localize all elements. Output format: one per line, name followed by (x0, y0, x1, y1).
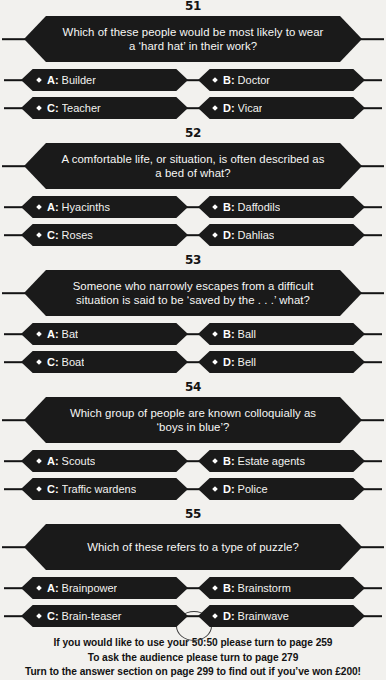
answer-option-b[interactable]: B: Doctor (198, 69, 365, 91)
answer-text: Brainwave (238, 610, 289, 622)
question-banner-shape: Which of these refers to a type of puzzl… (24, 524, 362, 570)
answer-row-ab: A: Hyacinths B: Daffodils (0, 196, 386, 218)
answer-letter: B: (223, 201, 235, 213)
diamond-bullet-icon (212, 585, 218, 591)
diamond-bullet-icon (36, 458, 42, 464)
answer-text: Dahlias (238, 229, 275, 241)
answer-option-b[interactable]: B: Daffodils (198, 196, 365, 218)
question-banner: Which of these refers to a type of puzzl… (0, 524, 386, 570)
question-banner: Which group of people are known colloqui… (0, 397, 386, 443)
question-banner-shape: Someone who narrowly escapes from a diff… (24, 270, 362, 316)
answer-option-b[interactable]: B: Ball (198, 323, 365, 345)
answer-text: Doctor (238, 74, 270, 86)
diamond-bullet-icon (36, 359, 42, 365)
answer-letter: C: (47, 102, 59, 114)
answer-letter: B: (223, 328, 235, 340)
question-text: Which group of people are known colloqui… (24, 406, 362, 435)
answer-letter: D: (223, 102, 235, 114)
footer-line-ask-audience: To ask the audience please turn to page … (0, 651, 386, 666)
answer-row-cd: C: Teacher D: Vicar (0, 97, 386, 119)
question-banner: Someone who narrowly escapes from a diff… (0, 270, 386, 316)
answer-letter: A: (47, 328, 59, 340)
question-block: 54 Which group of people are known collo… (0, 381, 386, 500)
question-text: Someone who narrowly escapes from a diff… (24, 279, 362, 308)
answer-option-d[interactable]: D: Bell (198, 351, 365, 373)
answer-option-a[interactable]: A: Bat (21, 323, 188, 345)
answer-option-a[interactable]: A: Hyacinths (21, 196, 188, 218)
question-number: 54 (0, 381, 386, 395)
answer-text: Bell (238, 356, 256, 368)
diamond-bullet-icon (36, 585, 42, 591)
answer-row-ab: A: Brainpower B: Brainstorm (0, 577, 386, 599)
answer-text: Estate agents (238, 455, 305, 467)
answer-letter: C: (47, 356, 59, 368)
diamond-bullet-icon (212, 232, 218, 238)
question-number: 52 (0, 127, 386, 141)
answer-text: Vicar (238, 102, 263, 114)
answer-option-c[interactable]: C: Boat (21, 351, 188, 373)
answer-text: Police (238, 483, 268, 495)
answer-option-a[interactable]: A: Brainpower (21, 577, 188, 599)
question-text: A comfortable life, or situation, is oft… (24, 152, 362, 181)
answer-option-c[interactable]: C: Roses (21, 224, 188, 246)
question-text: Which of these refers to a type of puzzl… (53, 540, 333, 555)
answer-option-c[interactable]: C: Teacher (21, 97, 188, 119)
answer-text: Scouts (62, 455, 96, 467)
question-banner-shape: Which of these people would be most like… (24, 16, 362, 62)
answer-option-a[interactable]: A: Scouts (21, 450, 188, 472)
diamond-bullet-icon (36, 613, 42, 619)
answer-text: Hyacinths (62, 201, 110, 213)
question-block: 51 Which of these people would be most l… (0, 0, 386, 119)
answer-text: Boat (62, 356, 85, 368)
answer-option-c[interactable]: C: Traffic wardens (21, 478, 188, 500)
footer-line-answer-section: Turn to the answer section on page 299 t… (0, 665, 386, 680)
answer-letter: D: (223, 356, 235, 368)
answer-text: Builder (62, 74, 96, 86)
answer-letter: C: (47, 610, 59, 622)
question-banner-shape: A comfortable life, or situation, is oft… (24, 143, 362, 189)
answer-letter: C: (47, 483, 59, 495)
answer-option-a[interactable]: A: Builder (21, 69, 188, 91)
answer-text: Daffodils (238, 201, 281, 213)
answer-option-d[interactable]: D: Brainwave (198, 605, 365, 627)
diamond-bullet-icon (212, 613, 218, 619)
answer-option-c[interactable]: C: Brain-teaser (21, 605, 188, 627)
answer-text: Brainstorm (238, 582, 291, 594)
diamond-bullet-icon (212, 105, 218, 111)
answer-text: Ball (238, 328, 256, 340)
answer-option-b[interactable]: B: Estate agents (198, 450, 365, 472)
diamond-bullet-icon (212, 204, 218, 210)
question-text: Which of these people would be most like… (24, 25, 362, 54)
answer-row-ab: A: Bat B: Ball (0, 323, 386, 345)
answer-option-d[interactable]: D: Dahlias (198, 224, 365, 246)
question-number: 51 (0, 0, 386, 14)
diamond-bullet-icon (212, 77, 218, 83)
answer-option-d[interactable]: D: Police (198, 478, 365, 500)
answer-text: Teacher (62, 102, 101, 114)
diamond-bullet-icon (36, 331, 42, 337)
question-banner-shape: Which group of people are known colloqui… (24, 397, 362, 443)
answer-text: Brain-teaser (62, 610, 122, 622)
answer-letter: B: (223, 455, 235, 467)
answer-letter: A: (47, 455, 59, 467)
question-banner: Which of these people would be most like… (0, 16, 386, 62)
answer-option-d[interactable]: D: Vicar (198, 97, 365, 119)
question-number: 55 (0, 508, 386, 522)
diamond-bullet-icon (212, 486, 218, 492)
answer-text: Traffic wardens (62, 483, 137, 495)
diamond-bullet-icon (36, 232, 42, 238)
answer-text: Roses (62, 229, 93, 241)
answer-row-ab: A: Builder B: Doctor (0, 69, 386, 91)
answer-row-cd: C: Traffic wardens D: Police (0, 478, 386, 500)
answer-option-b[interactable]: B: Brainstorm (198, 577, 365, 599)
answer-row-cd: C: Boat D: Bell (0, 351, 386, 373)
answer-letter: B: (223, 582, 235, 594)
question-block: 55 Which of these refers to a type of pu… (0, 508, 386, 627)
answer-letter: D: (223, 610, 235, 622)
answer-letter: A: (47, 582, 59, 594)
diamond-bullet-icon (212, 359, 218, 365)
question-block: 52 A comfortable life, or situation, is … (0, 127, 386, 246)
diamond-bullet-icon (36, 204, 42, 210)
answer-letter: D: (223, 483, 235, 495)
